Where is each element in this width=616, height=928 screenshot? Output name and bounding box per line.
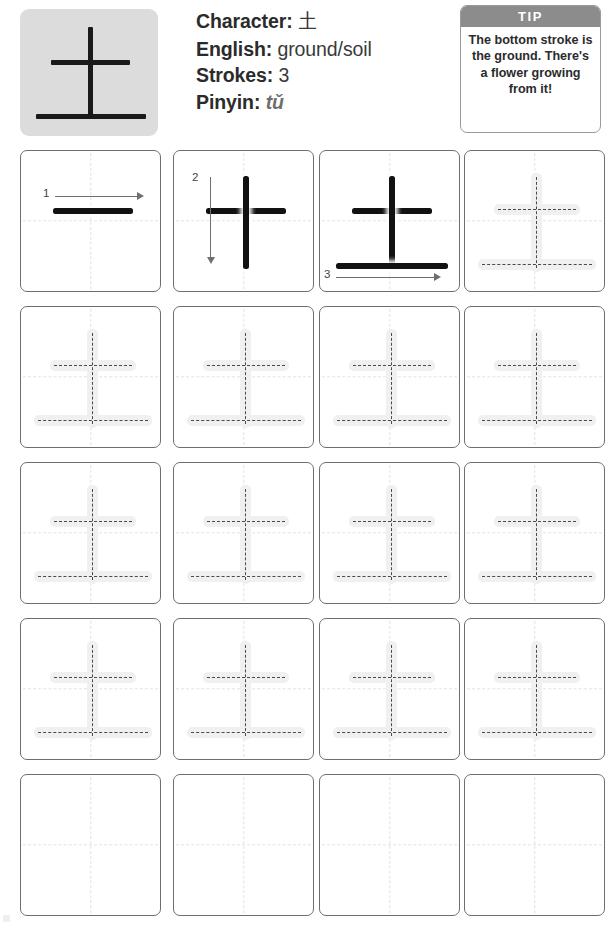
tip-heading: TIP	[461, 6, 600, 27]
stroke-number-3: 3	[324, 268, 330, 280]
character-preview-tile	[20, 9, 158, 136]
trace-dash-horizontal-bottom	[337, 420, 447, 421]
trace-dash-horizontal-bottom	[191, 576, 301, 577]
guide-line-horizontal	[23, 220, 158, 221]
trace-cell[interactable]	[20, 618, 161, 760]
trace-dash-horizontal-bottom	[337, 732, 447, 733]
stroke-step-cell-2[interactable]: 2	[173, 150, 314, 292]
pinyin-value: tǔ	[266, 91, 284, 113]
tip-text: The bottom stroke is the ground. There's…	[461, 27, 600, 97]
stroke-direction-arrow-head-2	[207, 257, 215, 264]
trace-dash-horizontal-bottom	[38, 576, 148, 577]
stroke-direction-arrow-line-3	[336, 277, 436, 278]
trace-dash-horizontal-top	[498, 521, 576, 522]
grid-row-trace	[20, 306, 598, 448]
guide-line-horizontal	[23, 844, 158, 845]
guide-line-horizontal	[322, 844, 457, 845]
trace-dash-horizontal-bottom	[38, 420, 148, 421]
trace-dash-horizontal-top	[207, 521, 285, 522]
stroke-vertical	[243, 176, 249, 269]
trace-dash-horizontal-bottom	[337, 576, 447, 577]
blank-practice-cell[interactable]	[20, 774, 161, 916]
guide-line-vertical	[389, 777, 390, 913]
trace-dash-horizontal-top	[54, 521, 132, 522]
worksheet-header: Character: 土 English: ground/soil Stroke…	[0, 0, 616, 145]
trace-dash-horizontal-bottom	[38, 732, 148, 733]
guide-line-vertical	[90, 153, 91, 289]
trace-cell[interactable]	[464, 618, 605, 760]
guide-line-vertical	[534, 777, 535, 913]
preview-stroke-vertical	[88, 27, 93, 119]
grid-row-trace	[20, 462, 598, 604]
stroke-step-cell-1[interactable]: 1	[20, 150, 161, 292]
grid-row-stroke-order: 1 2 3	[20, 150, 598, 292]
page-corner-mark	[3, 915, 10, 922]
trace-dash-vertical	[92, 645, 93, 736]
trace-cell[interactable]	[464, 150, 605, 292]
trace-cell[interactable]	[464, 462, 605, 604]
trace-cell[interactable]	[20, 462, 161, 604]
tip-box: TIP The bottom stroke is the ground. The…	[460, 5, 601, 133]
stroke-horizontal-top	[53, 208, 133, 214]
trace-dash-horizontal-top	[54, 365, 132, 366]
trace-cell[interactable]	[173, 462, 314, 604]
trace-dash-vertical	[391, 489, 392, 580]
trace-dash-vertical	[536, 489, 537, 580]
english-value: ground/soil	[277, 38, 371, 60]
stroke-number-1: 1	[43, 187, 49, 199]
character-info: Character: 土 English: ground/soil Stroke…	[196, 8, 451, 115]
stroke-direction-arrow-head-3	[434, 273, 441, 281]
trace-cell[interactable]	[173, 306, 314, 448]
trace-dash-horizontal-top	[353, 521, 431, 522]
trace-cell[interactable]	[319, 618, 460, 760]
stroke-number-2: 2	[192, 171, 198, 183]
preview-stroke-horizontal-bottom	[36, 114, 146, 119]
pinyin-label: Pinyin:	[196, 91, 260, 113]
trace-dash-vertical	[92, 489, 93, 580]
trace-dash-horizontal-bottom	[482, 264, 592, 265]
stroke-direction-arrow-head-1	[137, 192, 144, 200]
guide-line-horizontal	[467, 844, 602, 845]
trace-cell[interactable]	[464, 306, 605, 448]
trace-dash-horizontal-top	[498, 365, 576, 366]
trace-dash-horizontal-top	[498, 677, 576, 678]
trace-dash-vertical	[92, 333, 93, 424]
preview-stroke-horizontal-top	[51, 60, 130, 65]
trace-dash-vertical	[245, 489, 246, 580]
character-label: Character:	[196, 10, 293, 32]
trace-dash-vertical	[391, 645, 392, 736]
stroke-vertical	[389, 176, 395, 269]
blank-practice-cell[interactable]	[173, 774, 314, 916]
grid-row-blank	[20, 774, 598, 916]
trace-dash-horizontal-top	[498, 209, 576, 210]
trace-dash-vertical	[245, 333, 246, 424]
trace-dash-horizontal-bottom	[482, 576, 592, 577]
strokes-label: Strokes:	[196, 64, 273, 86]
blank-practice-cell[interactable]	[319, 774, 460, 916]
trace-dash-horizontal-bottom	[191, 732, 301, 733]
trace-dash-horizontal-bottom	[482, 732, 592, 733]
trace-dash-horizontal-top	[207, 677, 285, 678]
trace-cell[interactable]	[319, 462, 460, 604]
trace-dash-vertical	[536, 333, 537, 424]
character-value: 土	[298, 11, 317, 32]
strokes-value: 3	[279, 64, 290, 86]
info-row-strokes: Strokes: 3	[196, 62, 451, 89]
trace-dash-vertical	[536, 645, 537, 736]
trace-cell[interactable]	[319, 306, 460, 448]
english-label: English:	[196, 38, 272, 60]
stroke-direction-arrow-line-1	[55, 196, 139, 197]
info-row-character: Character: 土	[196, 8, 451, 36]
stroke-direction-arrow-line-2	[210, 177, 211, 259]
practice-grid: 1 2 3	[20, 150, 598, 928]
guide-line-vertical	[90, 777, 91, 913]
info-row-pinyin: Pinyin: tǔ	[196, 89, 451, 116]
trace-dash-horizontal-bottom	[191, 420, 301, 421]
stroke-step-cell-3[interactable]: 3	[319, 150, 460, 292]
trace-dash-horizontal-top	[353, 365, 431, 366]
trace-dash-vertical	[245, 645, 246, 736]
trace-cell[interactable]	[20, 306, 161, 448]
blank-practice-cell[interactable]	[464, 774, 605, 916]
trace-dash-horizontal-bottom	[482, 420, 592, 421]
trace-cell[interactable]	[173, 618, 314, 760]
